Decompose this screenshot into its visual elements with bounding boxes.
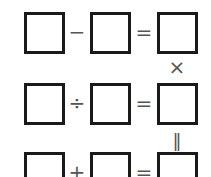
vertical-equals-operator: ‖ — [167, 132, 187, 150]
plus-operator: + — [67, 162, 87, 177]
box-r3-c1[interactable] — [24, 152, 65, 177]
box-r2-c1[interactable] — [24, 83, 65, 125]
box-r2-c2[interactable] — [90, 83, 131, 125]
box-r2-c3[interactable] — [157, 83, 198, 125]
divide-operator: ÷ — [67, 93, 87, 113]
box-r1-c1[interactable] — [24, 12, 65, 54]
box-r3-c2[interactable] — [90, 152, 131, 177]
box-r1-c3[interactable] — [157, 12, 198, 54]
minus-operator: − — [67, 22, 87, 42]
box-r3-c3[interactable] — [157, 152, 198, 177]
multiply-operator: × — [167, 58, 187, 76]
equals-operator: = — [134, 162, 154, 177]
box-r1-c2[interactable] — [90, 12, 131, 54]
equals-operator: = — [134, 22, 154, 42]
equals-operator: = — [134, 93, 154, 113]
